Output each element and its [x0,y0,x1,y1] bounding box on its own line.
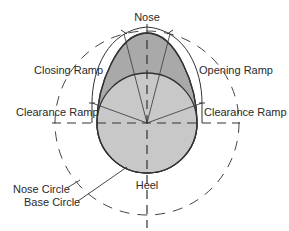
label-closing-ramp: Closing Ramp [34,64,103,76]
label-opening-ramp: Opening Ramp [199,64,273,76]
label-clearance-ramp-right: Clearance Ramp [204,106,287,118]
label-nose-circle: Nose Circle [13,183,70,195]
cam-lobe-diagram: Nose Closing Ramp Opening Ramp Clearance… [0,0,289,231]
label-base-circle: Base Circle [24,196,80,208]
label-nose: Nose [134,11,160,23]
label-clearance-ramp-left: Clearance Ramp [16,106,99,118]
label-heel: Heel [136,179,159,191]
